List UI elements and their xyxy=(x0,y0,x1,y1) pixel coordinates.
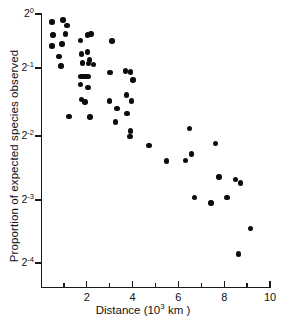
data-point xyxy=(88,31,93,36)
x-axis-title-suffix: km ) xyxy=(165,304,191,316)
data-point xyxy=(78,38,83,43)
data-point xyxy=(87,114,92,119)
data-point xyxy=(85,49,90,54)
data-point xyxy=(128,128,133,133)
data-point xyxy=(80,60,85,65)
data-point xyxy=(109,38,114,43)
data-point xyxy=(187,126,192,131)
data-point xyxy=(50,32,55,37)
x-axis-title: Distance (103 km ) xyxy=(0,304,286,316)
data-point xyxy=(192,195,197,200)
y-tick-major xyxy=(35,262,42,263)
data-point xyxy=(130,77,135,82)
data-point xyxy=(208,200,213,205)
data-point xyxy=(124,92,129,97)
y-tick-label: 2-2 xyxy=(21,130,34,141)
data-point xyxy=(60,17,65,22)
data-point xyxy=(146,143,151,148)
scatter-plot-figure: 246810202-12-22-32-4 Proportion of expec… xyxy=(0,0,286,323)
x-tick-label: 6 xyxy=(175,292,181,303)
data-point xyxy=(236,251,241,256)
data-point xyxy=(114,106,119,111)
data-point xyxy=(107,98,112,103)
y-tick-label: 2-1 xyxy=(21,62,34,73)
data-point xyxy=(85,85,90,90)
x-tick-label: 10 xyxy=(264,292,276,303)
y-tick-label: 2-3 xyxy=(21,194,34,205)
y-tick-major xyxy=(35,67,42,68)
data-point xyxy=(79,51,84,56)
y-tick-major xyxy=(35,13,42,14)
data-point xyxy=(189,151,194,156)
data-point xyxy=(85,74,90,79)
y-axis-title: Proportion of expected species observed xyxy=(8,41,20,271)
data-point xyxy=(224,195,229,200)
data-point xyxy=(213,141,218,146)
data-point xyxy=(56,54,61,59)
data-point xyxy=(127,134,132,139)
data-point xyxy=(128,69,133,74)
data-point xyxy=(216,174,221,179)
x-tick-label: 4 xyxy=(130,292,136,303)
data-point xyxy=(63,31,68,36)
data-point xyxy=(49,19,54,24)
data-point xyxy=(64,23,69,28)
data-point xyxy=(113,119,118,124)
x-tick-label: 2 xyxy=(84,292,90,303)
data-point xyxy=(58,63,63,68)
y-tick-major xyxy=(35,199,42,200)
y-tick-major xyxy=(35,135,42,136)
data-point xyxy=(129,98,134,103)
x-tick-label: 8 xyxy=(221,292,227,303)
data-point xyxy=(78,82,83,87)
x-axis-title-main: Distance (10 xyxy=(96,304,161,316)
y-tick-label: 2-4 xyxy=(21,257,34,268)
plot-area xyxy=(42,14,286,287)
data-point xyxy=(49,43,54,48)
data-point xyxy=(59,41,64,46)
data-point xyxy=(183,158,188,163)
data-point xyxy=(248,226,253,231)
data-point xyxy=(91,62,96,67)
data-point xyxy=(124,111,129,116)
data-point xyxy=(238,180,243,185)
data-point xyxy=(164,158,169,163)
data-point xyxy=(107,70,112,75)
data-point xyxy=(66,114,71,119)
data-point xyxy=(82,99,87,104)
y-tick-label: 20 xyxy=(24,8,34,19)
